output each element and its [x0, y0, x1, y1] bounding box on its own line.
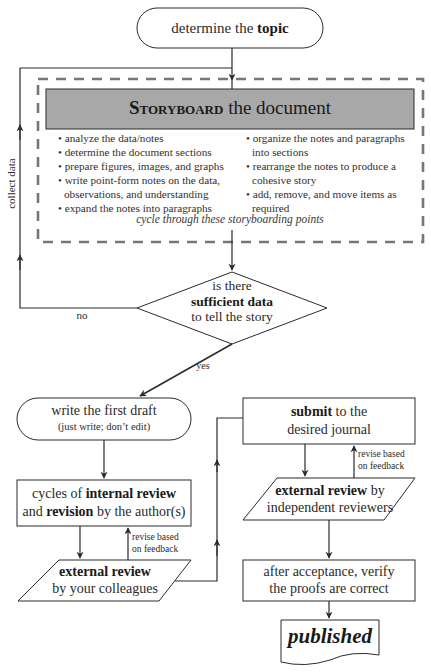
storyboard-item: • determine the document sections [58, 145, 224, 159]
external-colleagues-node: external review by your colleagues [30, 563, 180, 597]
storyboard-item: • prepare figures, images, and graphs [58, 159, 224, 173]
decision-node: is there sufficient data to tell the sto… [137, 278, 327, 325]
storyboard-left-list: • analyze the data/notes • determine the… [58, 131, 224, 215]
storyboard-cycle-note: cycle through these storyboarding points [46, 213, 414, 227]
internal-review-node: cycles of internal review and revision b… [17, 485, 191, 521]
topic-keyword: topic [257, 20, 289, 36]
collect-data-label: collect data [5, 154, 18, 214]
yes-label: yes [193, 360, 213, 372]
revise-right-label: revise based on feedback [358, 448, 418, 472]
storyboard-item: • analyze the data/notes [58, 131, 224, 145]
revise-left-label: revise based on feedback [132, 531, 188, 555]
storyboard-keyword: Storyboard [129, 97, 223, 118]
submit-keyword: submit [291, 404, 332, 419]
submit-node: submit to the desired journal [243, 403, 415, 439]
external-independent-node: external review by independent reviewers [255, 482, 405, 516]
storyboard-header: Storyboard the document [46, 97, 414, 120]
storyboard-item: • add, remove, and move items as [246, 187, 405, 201]
published-node: published [281, 624, 379, 649]
topic-node: determine the topic [137, 19, 323, 37]
storyboard-right-list: • organize the notes and paragraphs into… [246, 131, 405, 215]
proofs-node: after acceptance, verify the proofs are … [243, 563, 415, 597]
storyboard-item: • write point-form notes on the data, [58, 173, 224, 187]
storyboard-item-continuation: observations, and understanding [58, 187, 224, 201]
decision-keyword: sufficient data [137, 294, 327, 310]
no-label: no [72, 309, 92, 322]
storyboard-item-continuation: cohesive story [246, 173, 405, 187]
first-draft-node: write the first draft (just write; don’t… [17, 403, 191, 433]
storyboard-item: • organize the notes and paragraphs [246, 131, 405, 145]
storyboard-item: • rearrange the notes to produce a [246, 159, 405, 173]
storyboard-item-continuation: into sections [246, 145, 405, 159]
